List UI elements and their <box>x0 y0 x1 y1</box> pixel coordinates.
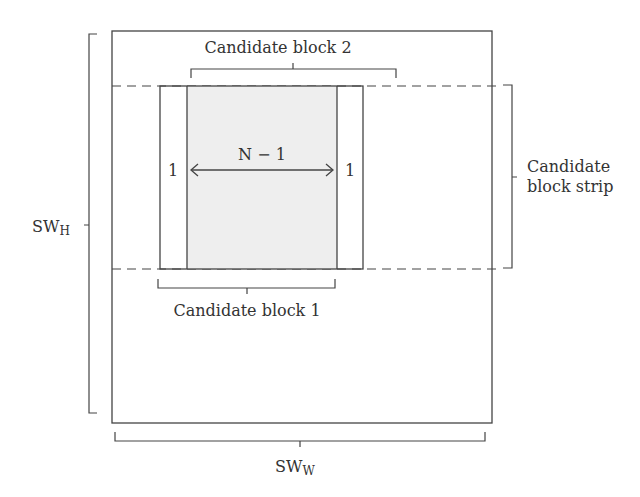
label-candidate-block-2: Candidate block 2 <box>204 38 351 57</box>
brace-sw-w <box>115 432 485 447</box>
label-candidate-block-1: Candidate block 1 <box>173 301 320 320</box>
brace-candidate-block-2 <box>191 63 396 78</box>
label-candidate-block-strip-2: block strip <box>527 177 613 196</box>
brace-sw-h <box>84 34 97 413</box>
label-n-minus-1: N − 1 <box>238 145 286 164</box>
overlap-region <box>187 86 337 269</box>
label-sw-w: SWW <box>275 457 315 478</box>
label-sw-h: SWH <box>32 217 70 238</box>
label-right-one: 1 <box>345 161 355 180</box>
label-candidate-block-strip-1: Candidate <box>527 157 610 176</box>
label-left-one: 1 <box>168 161 178 180</box>
search-window-diagram: Candidate block 2 Candidate block 1 N − … <box>0 0 640 497</box>
brace-candidate-block-strip <box>503 85 517 268</box>
brace-candidate-block-1 <box>158 279 335 294</box>
